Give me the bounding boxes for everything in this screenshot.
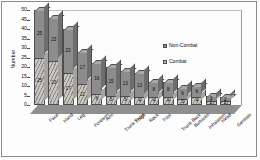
bar-segment-non-combat[interactable]: 23 [63,29,74,73]
bar-value-non-combat: 8 [164,88,173,93]
bar-segment-combat[interactable]: 11 [77,84,88,105]
x-tick-label: Hand [63,113,75,124]
legend-label-non-combat: Non-Combat [169,43,197,48]
bar-group[interactable]: 166 [91,63,102,105]
bar-group[interactable]: 22 [220,97,231,105]
y-tick-mark [27,86,30,87]
y-tick-mark [27,77,30,78]
legend-item-combat: Combat [163,59,197,64]
x-tick-label: Foot [163,113,173,123]
bar-value-combat: 5 [107,98,116,103]
bar-segment-non-combat[interactable]: 16 [91,63,102,93]
bar-value-non-combat: 17 [78,66,87,71]
bar-group[interactable]: 2525 [34,10,45,105]
y-tick-mark [27,20,30,21]
bar-value-combat: 2 [207,101,216,106]
bar-value-non-combat: 13 [135,83,144,88]
bar-value-non-combat: 16 [92,77,101,82]
bar-segment-combat[interactable]: 4 [148,97,159,105]
bar-segment-combat[interactable]: 23 [48,61,59,105]
bar-segment-combat[interactable]: 5 [106,96,117,106]
y-tick-mark [27,58,30,59]
bar-value-non-combat: 25 [35,32,44,37]
legend-item-non-combat: Non-Combat [163,43,197,48]
bar-value-combat: 23 [49,81,58,86]
y-axis-title: Number [10,29,16,89]
bar-segment-combat[interactable]: 3 [177,99,188,105]
bar-value-combat: 4 [149,99,158,104]
y-tick-mark [27,105,30,106]
bar-chart: Number 05101520253035404550 252523232317… [0,0,260,160]
bar-segment-non-combat[interactable]: 25 [34,10,45,58]
bar-group[interactable]: 1711 [77,52,88,105]
bar-group[interactable]: 84 [163,82,174,105]
bar-value-combat: 17 [64,87,73,92]
legend-swatch-non-combat-icon [163,44,167,48]
legend-label-combat: Combat [169,59,187,64]
bar-group[interactable]: 2323 [48,18,59,105]
bar-value-combat: 11 [78,92,87,97]
bar-value-combat: 3 [178,100,187,105]
x-tick-label: Leg [77,113,86,122]
bar-group[interactable]: 63 [177,88,188,105]
bar-value-non-combat: 6 [192,90,201,95]
chart-legend: Non-Combat Combat [163,43,197,75]
x-tick-label: Neck [149,113,160,124]
x-axis: FaceHandLegForearmArmTrunk FrontThighNec… [30,113,242,158]
bar-group[interactable]: 84 [148,82,159,105]
y-tick-mark [27,39,30,40]
y-tick-mark [27,10,30,11]
bar-segment-non-combat[interactable]: 15 [106,67,117,96]
bar-segment-combat[interactable]: 2 [220,101,231,105]
x-tick-label: Face [49,113,60,124]
bar-segment-non-combat[interactable]: 13 [120,71,131,96]
y-tick-mark [27,96,30,97]
bar-value-combat: 5 [121,98,130,103]
x-tick-label: Thigh [135,113,147,125]
bar-segment-non-combat[interactable]: 17 [77,52,88,84]
x-tick-label: Arm [105,113,115,122]
y-tick-mark [27,48,30,49]
plot-area: 05101520253035404550 2525232323171711166… [30,10,242,110]
bar-value-combat: 6 [92,97,101,102]
bar-group[interactable]: 32 [206,96,217,105]
bar-segment-combat[interactable]: 17 [63,73,74,105]
bar-value-non-combat: 23 [49,38,58,43]
bar-value-combat: 2 [221,101,230,106]
bar-value-non-combat: 13 [121,81,130,86]
bar-value-combat: 4 [135,99,144,104]
bar-value-combat: 4 [192,99,201,104]
bar-value-combat: 25 [35,79,44,84]
bar-segment-combat[interactable]: 6 [91,94,102,105]
bar-segment-combat[interactable]: 5 [120,96,131,106]
bar-segment-combat[interactable]: 4 [163,97,174,105]
bar-segment-combat[interactable]: 2 [206,101,217,105]
bar-value-non-combat: 6 [178,92,187,97]
bar-value-non-combat: 23 [64,49,73,54]
bar-group[interactable]: 155 [106,67,117,105]
bar-value-non-combat: 15 [107,79,116,84]
bar-group[interactable]: 134 [134,73,145,105]
bar-group[interactable]: 2317 [63,29,74,105]
bar-segment-non-combat[interactable]: 23 [48,18,59,62]
bar-segment-combat[interactable]: 4 [134,97,145,105]
bar-segment-combat[interactable]: 4 [191,97,202,105]
bar-value-non-combat: 8 [149,88,158,93]
bar-value-combat: 4 [164,99,173,104]
y-tick-mark [27,29,30,30]
bar-group[interactable]: 64 [191,86,202,105]
legend-swatch-combat-icon [163,60,167,64]
y-tick-mark [27,67,30,68]
bar-group[interactable]: 135 [120,71,131,105]
bar-segment-combat[interactable]: 25 [34,58,45,106]
